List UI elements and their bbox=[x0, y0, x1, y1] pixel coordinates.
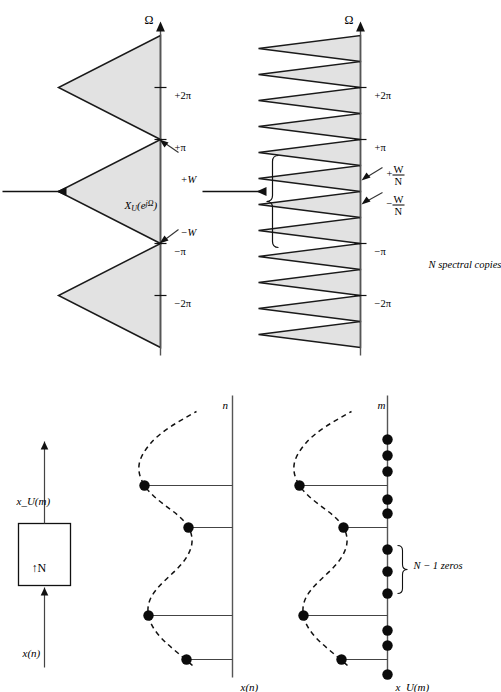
zeros-brace-label: N − 1 zeros bbox=[413, 560, 462, 571]
sample-dot bbox=[336, 654, 346, 664]
zero-sample-dot bbox=[382, 588, 392, 598]
spectrum-copy-triangle bbox=[258, 217, 360, 243]
spectrum-output-axis-label: Ω bbox=[344, 13, 353, 25]
spectrum-copy-triangle bbox=[258, 113, 360, 139]
block-diagram: x(n) ↑N x_U(m) bbox=[6, 373, 76, 673]
pos-band-arrowhead bbox=[361, 172, 370, 180]
spectrum-plot-output bbox=[228, 15, 388, 355]
sample-dot bbox=[338, 522, 348, 532]
axis-tick-label: −2π bbox=[174, 298, 190, 309]
time-output-signal-label: x_U(m) bbox=[395, 681, 429, 692]
spectrum-copy-triangle bbox=[258, 321, 360, 347]
spectrum-copy-triangle bbox=[258, 61, 360, 87]
time-input-axis-label: n bbox=[222, 399, 228, 410]
axis-tick-label: −π bbox=[174, 246, 185, 257]
axis-tick-label: −π bbox=[374, 246, 385, 257]
zero-sample-dot bbox=[382, 434, 392, 444]
block-diagram-output-label: x_U(m) bbox=[16, 495, 50, 506]
spectrum-triangle bbox=[58, 243, 160, 347]
stem-plot-input bbox=[100, 387, 250, 687]
spectrum-input-axis-label: Ω bbox=[144, 13, 153, 25]
spectrum-copy-triangle bbox=[258, 269, 360, 295]
spectrum-triangle bbox=[58, 139, 160, 243]
spectrum-copy-triangle bbox=[258, 35, 360, 61]
neg-band-edge-label: −W bbox=[180, 227, 196, 238]
time-output-axis-label: m bbox=[377, 399, 385, 410]
axis-tick-label: +2π bbox=[374, 90, 390, 101]
spectrum-copy-triangle bbox=[258, 191, 360, 217]
sample-dot bbox=[183, 522, 193, 532]
spectrum-copy-triangle bbox=[258, 243, 360, 269]
sample-dot bbox=[143, 610, 153, 620]
stem-plot-output bbox=[255, 387, 415, 687]
spectrum-input-panel: −2π −π +π +2π −W +W Ω X(ejΩ) bbox=[28, 15, 178, 355]
spectrum-copy-triangle bbox=[258, 139, 360, 165]
spectral-copies-label: N spectral copies bbox=[428, 259, 501, 270]
spectrum-plot-input bbox=[28, 15, 178, 355]
omega-axis-arrowhead bbox=[156, 21, 165, 31]
pos-band-edge-label: +W bbox=[180, 174, 196, 185]
axis-tick-label: +π bbox=[174, 142, 185, 153]
zero-sample-dot bbox=[382, 566, 392, 576]
axis-tick-label: −2π bbox=[374, 298, 390, 309]
neg-band-edge-fraction-label: −WN bbox=[386, 193, 404, 216]
sample-dot bbox=[139, 480, 149, 490]
block-diagram-input-label: x(n) bbox=[22, 647, 40, 658]
neg-band-arrowhead bbox=[361, 196, 370, 204]
time-domain-input-panel: n x(n) bbox=[100, 387, 250, 687]
axis-tick-label: +π bbox=[374, 142, 385, 153]
zero-sample-dot bbox=[382, 669, 392, 679]
sample-dot bbox=[298, 610, 308, 620]
omega-axis-arrowhead bbox=[356, 21, 365, 31]
pos-band-edge-fraction-label: +WN bbox=[386, 163, 404, 186]
zeros-brace bbox=[397, 545, 407, 593]
zero-sample-dot bbox=[382, 508, 392, 518]
spectrum-output-curve-label: XU(ejΩ) bbox=[124, 199, 157, 213]
spectrum-output-panel: −2π −π +π +2π −WN +WN N spectral copies … bbox=[228, 15, 388, 355]
upsampler-box bbox=[18, 523, 70, 585]
zero-sample-dot bbox=[382, 544, 392, 554]
envelope-dashed-curve bbox=[293, 411, 351, 665]
zero-sample-dot bbox=[382, 494, 392, 504]
zero-sample-dot bbox=[382, 466, 392, 476]
spectrum-copy-triangle bbox=[258, 165, 360, 191]
spectrum-triangle bbox=[58, 35, 160, 139]
upsampler-block-label: ↑N bbox=[31, 561, 46, 573]
spectrum-copy-triangle bbox=[258, 295, 360, 321]
zero-sample-dot bbox=[382, 625, 392, 635]
envelope-dashed-curve bbox=[138, 411, 196, 665]
axis-tick-label: +2π bbox=[174, 90, 190, 101]
time-domain-output-panel: m x_U(m) N − 1 zeros bbox=[255, 387, 415, 687]
zero-sample-dot bbox=[382, 640, 392, 650]
block-diagram-graphic bbox=[6, 373, 76, 673]
zero-sample-dot bbox=[382, 450, 392, 460]
spectrum-copy-triangle bbox=[258, 87, 360, 113]
sample-dot bbox=[181, 654, 191, 664]
sample-dot bbox=[294, 480, 304, 490]
